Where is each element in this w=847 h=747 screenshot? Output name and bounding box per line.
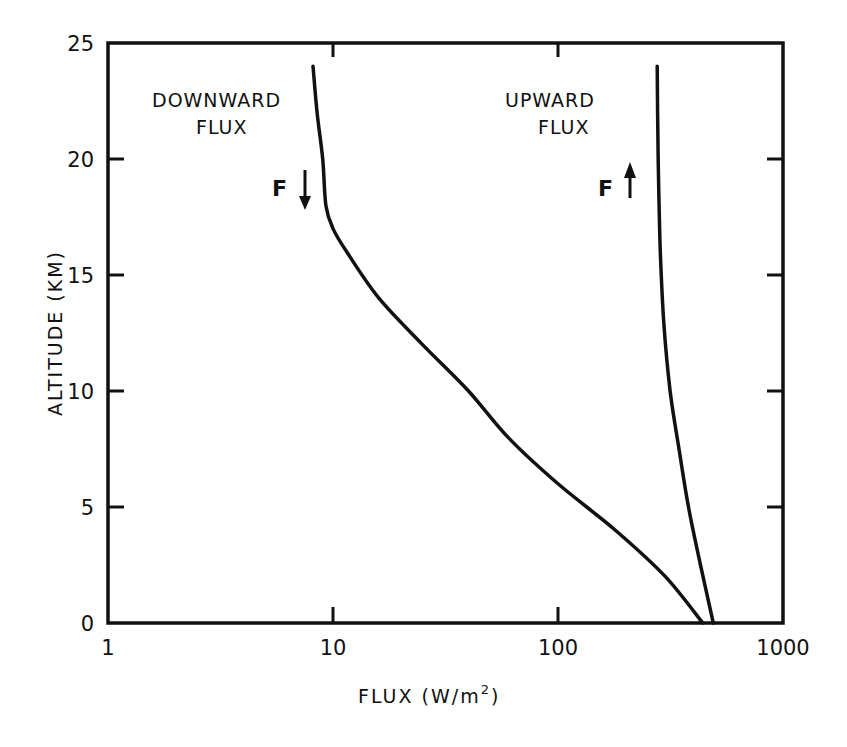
x-tick-labels: 1101001000: [101, 636, 809, 660]
upward-f-symbol: F: [598, 176, 613, 201]
y-tick-label: 25: [67, 32, 94, 56]
upward-flux-curve: [657, 66, 713, 623]
x-tick-label: 1000: [756, 636, 809, 660]
flux-chart: 0510152025 1101001000 DOWNWARD FLUX F UP…: [0, 0, 847, 747]
y-tick-label: 10: [67, 380, 94, 404]
y-tick-label: 20: [67, 148, 94, 172]
y-tick-label: 15: [67, 264, 94, 288]
downward-label-line1: DOWNWARD: [152, 89, 281, 111]
upward-label-line2: FLUX: [538, 116, 590, 138]
upward-label-line1: UPWARD: [505, 89, 595, 111]
x-tick-label: 1: [101, 636, 114, 660]
y-tick-labels: 0510152025: [67, 32, 94, 636]
x-tick-label: 10: [320, 636, 347, 660]
y-tick-label: 0: [81, 612, 94, 636]
downward-f-symbol: F: [272, 176, 287, 201]
y-tick-label: 5: [81, 496, 94, 520]
arrow-down-icon: [299, 170, 311, 210]
downward-flux-curve: [313, 66, 703, 623]
x-axis-label: FLUX (W/m2): [358, 682, 500, 707]
x-tick-label: 100: [538, 636, 578, 660]
downward-label-line2: FLUX: [196, 116, 248, 138]
arrow-up-icon: [624, 162, 636, 198]
y-axis-label: ALTITUDE (KM): [44, 250, 66, 416]
